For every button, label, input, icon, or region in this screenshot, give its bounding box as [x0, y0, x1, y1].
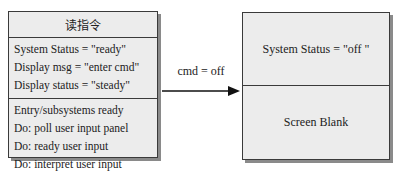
state-attributes: System Status = "off " [243, 13, 389, 86]
state-attributes: System Status = "ready" Display msg = "e… [9, 38, 157, 99]
action-ready: Do: ready user input [9, 137, 157, 155]
transition-label: cmd = off [162, 64, 240, 79]
transition-arrow [162, 84, 240, 98]
action-screen-blank: Screen Blank [284, 115, 348, 130]
attribute-display-msg: Display msg = "enter cmd" [9, 58, 157, 76]
state-off: System Status = "off " Screen Blank [242, 12, 390, 160]
state-actions: Entry/subsystems ready Do: poll user inp… [9, 99, 157, 173]
state-title: 读指令 [9, 12, 157, 38]
state-actions: Screen Blank [243, 86, 389, 159]
attribute-system-status: System Status = "off " [262, 42, 369, 57]
arrowhead-icon [228, 86, 240, 96]
action-poll: Do: poll user input panel [9, 119, 157, 137]
attribute-system-status: System Status = "ready" [9, 40, 157, 58]
action-entry: Entry/subsystems ready [9, 101, 157, 119]
action-interpret: Do: interpret user input [9, 155, 157, 173]
attribute-display-status: Display status = "steady" [9, 76, 157, 94]
state-read-command: 读指令 System Status = "ready" Display msg … [8, 11, 158, 158]
